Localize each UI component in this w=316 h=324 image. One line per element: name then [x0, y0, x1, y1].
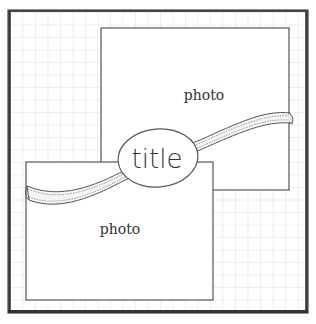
title-label: title — [132, 144, 183, 174]
photo-bottom-label: photo — [100, 221, 140, 237]
sketch-canvas: photo photo title — [0, 0, 316, 324]
photo-top-label: photo — [184, 87, 224, 103]
